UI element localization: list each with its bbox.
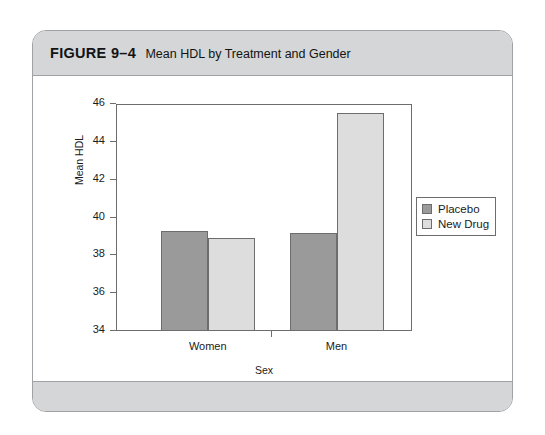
chart-legend: PlaceboNew Drug xyxy=(416,197,496,236)
legend-swatch xyxy=(422,219,432,229)
legend-item: New Drug xyxy=(422,216,489,231)
bar xyxy=(161,231,208,331)
legend-label: New Drug xyxy=(438,218,489,230)
y-tick-label: 44 xyxy=(77,134,105,146)
y-tick-label: 36 xyxy=(77,285,105,297)
figure-caption: FIGURE 9–4 Mean HDL by Treatment and Gen… xyxy=(33,44,351,62)
y-tick-label: 34 xyxy=(77,323,105,335)
x-axis-title: Sex xyxy=(116,364,412,376)
bar xyxy=(337,113,384,331)
legend-swatch xyxy=(422,204,432,214)
figure-header: FIGURE 9–4 Mean HDL by Treatment and Gen… xyxy=(33,31,512,76)
figure-caption-text: Mean HDL by Treatment and Gender xyxy=(145,47,350,61)
legend-label: Placebo xyxy=(438,203,480,215)
y-tick-label: 38 xyxy=(77,247,105,259)
figure-number: FIGURE 9–4 xyxy=(50,45,136,61)
legend-item: Placebo xyxy=(422,201,489,216)
y-axis-title: Mean HDL xyxy=(73,100,85,220)
y-tick-label: 42 xyxy=(77,172,105,184)
figure-card: FIGURE 9–4 Mean HDL by Treatment and Gen… xyxy=(32,30,513,412)
y-tick-label: 40 xyxy=(77,210,105,222)
bar xyxy=(208,238,255,331)
x-tick-mark xyxy=(271,331,272,337)
x-category-label: Men xyxy=(292,340,382,352)
axes-frame xyxy=(116,104,412,331)
bar xyxy=(290,233,337,331)
y-tick-label: 46 xyxy=(77,96,105,108)
chart-plot-area: Mean HDL 46444240383634 WomenMen Sex Pla… xyxy=(33,76,512,384)
figure-footer xyxy=(33,381,512,411)
x-category-label: Women xyxy=(163,340,253,352)
